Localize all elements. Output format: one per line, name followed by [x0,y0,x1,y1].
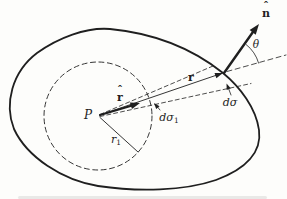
r1-label: r1 [111,134,121,145]
figure-line-art [0,0,287,199]
r-vector-label: r [188,72,194,83]
r1-subscript: 1 [116,138,121,147]
n-hat-vector-line [224,31,254,74]
solid-angle-diagram: P ˆ r r ˆ n θ dσ1 dσ r1 [0,0,287,199]
n-hat-letter: n [262,9,270,19]
d-sigma-1-main: dσ [159,111,174,124]
point-p-label: P [84,109,92,121]
n-hat-label: ˆ n [262,5,270,19]
d-sigma-1-label: dσ1 [159,112,178,123]
r-hat-letter: r [117,93,123,103]
scan-edge-artifact [18,196,267,199]
r-hat-label: ˆ r [117,89,123,103]
d-sigma-label: dσ [223,97,238,108]
d-sigma-1-subscript: 1 [174,116,179,125]
theta-label: θ [253,39,259,50]
inner-dashed-circle [44,62,152,170]
